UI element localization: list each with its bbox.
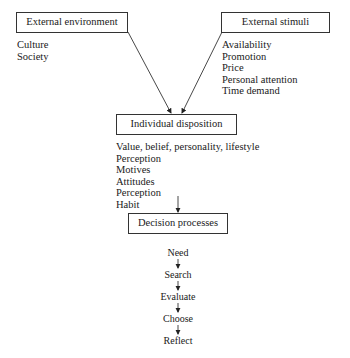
- step-evaluate: Evaluate: [138, 291, 218, 302]
- list-item: Price: [222, 62, 298, 74]
- step-reflect: Reflect: [138, 335, 218, 346]
- list-item: Motives: [116, 164, 259, 176]
- external-environment-list: Culture Society: [17, 39, 49, 62]
- external-environment-box: External environment: [16, 12, 128, 33]
- decision-processes-box: Decision processes: [128, 213, 228, 234]
- step-choose: Choose: [138, 313, 218, 324]
- arrow-stimuli-to-disposition: [182, 32, 222, 113]
- list-item: Promotion: [222, 51, 298, 63]
- step-need: Need: [138, 247, 218, 258]
- list-item: Society: [17, 51, 49, 63]
- list-item: Time demand: [222, 85, 298, 97]
- list-item: Perception: [116, 187, 259, 199]
- list-item: Attitudes: [116, 176, 259, 188]
- list-item: Habit: [116, 199, 259, 211]
- list-item: Availability: [222, 39, 298, 51]
- arrow-environment-to-disposition: [128, 32, 171, 113]
- individual-disposition-box: Individual disposition: [116, 114, 237, 135]
- list-item: Value, belief, personality, lifestyle: [116, 141, 259, 153]
- list-item: Perception: [116, 153, 259, 165]
- individual-disposition-list: Value, belief, personality, lifestyle Pe…: [116, 141, 259, 210]
- list-item: Culture: [17, 39, 49, 51]
- external-stimuli-list: Availability Promotion Price Personal at…: [222, 39, 298, 97]
- step-search: Search: [138, 269, 218, 280]
- list-item: Personal attention: [222, 74, 298, 86]
- external-stimuli-box: External stimuli: [221, 12, 330, 33]
